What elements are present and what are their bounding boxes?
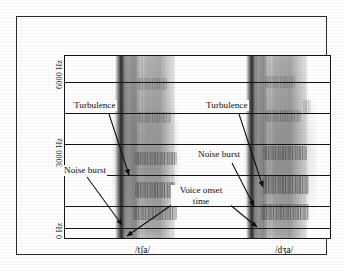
annotation-noise-burst-tfa: Noise burst — [63, 165, 107, 176]
y-axis-tick-3000hz: 3000 Hz — [55, 138, 64, 167]
spectrogram-band-dza — [243, 56, 321, 238]
x-axis-tick-dza: /dʒa/ — [275, 245, 293, 255]
figure-frame: 6000 Hz 3000 Hz 0 Hz — [16, 16, 327, 255]
annotation-noise-burst-dza: Noise burst — [197, 149, 241, 160]
spectrogram-plot-area — [64, 55, 331, 239]
x-axis-tick-tfa: /tʃa/ — [135, 245, 150, 255]
annotation-turbulence-dza: Turbulence — [205, 100, 249, 111]
y-axis-tick-0hz: 0 Hz — [55, 223, 64, 239]
annotation-voice-onset-time: Voice onset time — [171, 185, 231, 206]
spectrogram-band-tfa — [111, 56, 183, 238]
annotation-turbulence-tfa: Turbulence — [73, 100, 117, 111]
y-axis-tick-6000hz: 6000 Hz — [55, 60, 64, 89]
